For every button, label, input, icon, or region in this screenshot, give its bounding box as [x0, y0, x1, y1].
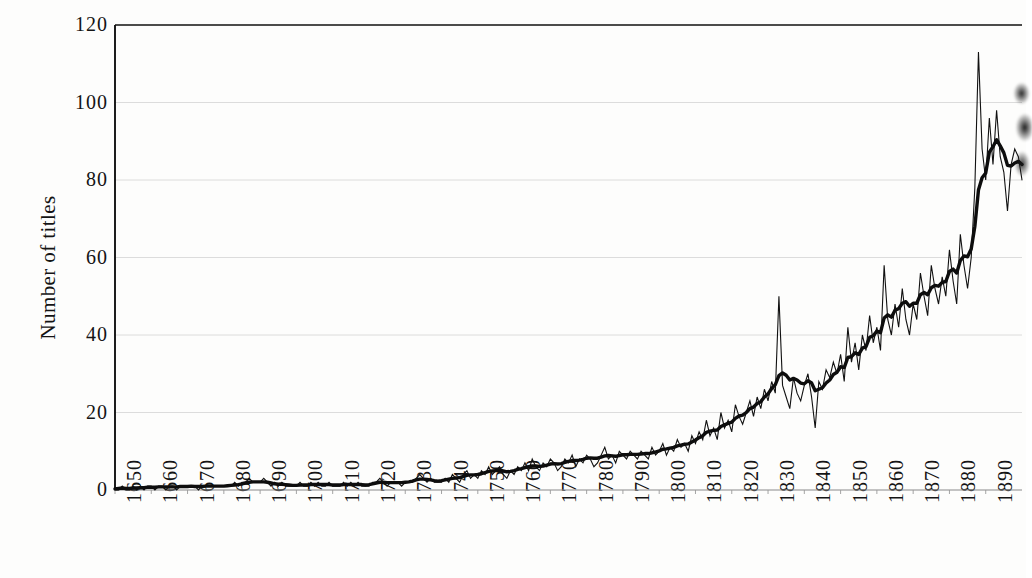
grid-lines — [115, 103, 1022, 413]
series-path-0 — [115, 52, 1022, 490]
series-path-1 — [115, 140, 1022, 489]
axis-spines — [115, 25, 1022, 494]
data-series-layer — [115, 52, 1022, 490]
